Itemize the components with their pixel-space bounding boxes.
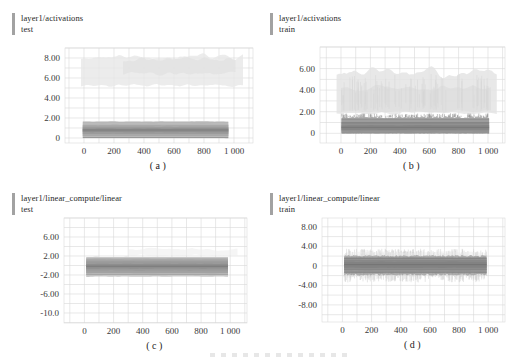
y-tick-label: -10.0 — [40, 308, 59, 318]
y-tick-label: 8.00 — [44, 53, 60, 63]
x-tick-label: 1 000 — [478, 325, 499, 335]
y-tick-label: 2.00 — [43, 251, 59, 261]
chart-caption: (c) — [64, 340, 247, 351]
x-tick-label: 400 — [137, 146, 151, 156]
x-tick-label: 1 000 — [224, 146, 245, 156]
x-tick-label: 0 — [82, 146, 87, 156]
x-tick-label: 0 — [340, 325, 345, 335]
x-tick-label: 200 — [107, 326, 121, 336]
distribution-layers — [337, 66, 497, 133]
tag-marker-bar — [12, 193, 15, 215]
x-tick-label: 200 — [365, 325, 379, 335]
x-tick-label: 800 — [452, 325, 466, 335]
y-tick-label: 4.00 — [44, 93, 60, 103]
distribution-layers — [86, 248, 237, 277]
x-tick-label: 400 — [136, 326, 150, 336]
chart-run: test — [21, 24, 83, 35]
axis-tick-labels: 6.002.00-2.00-6.00-10.002004006008001 00… — [40, 232, 241, 336]
chart-caption: (a) — [65, 160, 253, 171]
y-tick-label: 2.00 — [299, 107, 315, 117]
chart-title-block: layer1/linear_compute/linear train — [270, 193, 380, 215]
y-tick-label: -6.00 — [40, 289, 59, 299]
chart-panel-a: layer1/activations test 8.006.004.002.00… — [0, 0, 258, 180]
chart-title-block: layer1/activations train — [270, 13, 341, 35]
tag-marker-bar — [270, 13, 273, 35]
x-tick-label: 200 — [107, 146, 121, 156]
chart-panel-d: layer1/linear_compute/linear train 8.004… — [258, 180, 516, 360]
chart-run: train — [279, 204, 380, 215]
chart-run: train — [279, 24, 341, 35]
x-tick-label: 0 — [339, 146, 344, 156]
x-tick-label: 600 — [167, 146, 181, 156]
x-tick-label: 800 — [194, 326, 208, 336]
chart-tag: layer1/activations — [21, 13, 83, 24]
tag-marker-bar — [12, 13, 15, 35]
x-tick-label: 1 000 — [478, 146, 499, 156]
y-tick-label: 0 — [311, 128, 316, 138]
chart-title-block: layer1/activations test — [12, 13, 83, 35]
x-tick-label: 800 — [197, 146, 211, 156]
chart-tag: layer1/linear_compute/linear — [279, 193, 380, 204]
chart-caption: (d) — [322, 339, 505, 350]
y-tick-label: 0 — [56, 133, 61, 143]
cropped-text-remnant — [210, 353, 350, 357]
x-tick-label: 1 000 — [220, 326, 241, 336]
chart-tag: layer1/activations — [279, 13, 341, 24]
chart-title-block: layer1/linear_compute/linear test — [12, 193, 122, 215]
x-tick-label: 200 — [364, 146, 378, 156]
chart-panel-b: layer1/activations train 6.004.002.00002… — [258, 0, 516, 180]
x-tick-label: 400 — [393, 146, 407, 156]
x-tick-label: 400 — [394, 325, 408, 335]
x-tick-label: 600 — [422, 146, 436, 156]
figure-canvas: layer1/activations test 8.006.004.002.00… — [0, 0, 516, 360]
tag-marker-bar — [270, 193, 273, 215]
x-tick-label: 600 — [423, 325, 437, 335]
chart-tag: layer1/linear_compute/linear — [21, 193, 122, 204]
y-tick-label: 6.00 — [44, 73, 60, 83]
y-tick-label: 6.00 — [299, 64, 315, 74]
distribution-layers — [344, 249, 486, 283]
y-tick-label: -8.00 — [298, 300, 317, 310]
y-tick-label: -2.00 — [40, 270, 59, 280]
y-tick-label: 8.00 — [301, 222, 317, 232]
x-tick-label: 600 — [165, 326, 179, 336]
x-tick-label: 0 — [82, 326, 87, 336]
y-tick-label: 6.00 — [43, 232, 59, 242]
y-tick-label: 2.00 — [44, 113, 60, 123]
y-tick-label: 4.00 — [299, 85, 315, 95]
y-tick-label: 4.00 — [301, 241, 317, 251]
distribution-band — [128, 248, 237, 257]
chart-panel-c: layer1/linear_compute/linear test 6.002.… — [0, 180, 258, 360]
chart-run: test — [21, 204, 122, 215]
chart-caption: (b) — [320, 160, 505, 171]
y-tick-label: 0 — [313, 261, 318, 271]
x-tick-label: 800 — [452, 146, 466, 156]
y-tick-label: -4.00 — [298, 280, 317, 290]
